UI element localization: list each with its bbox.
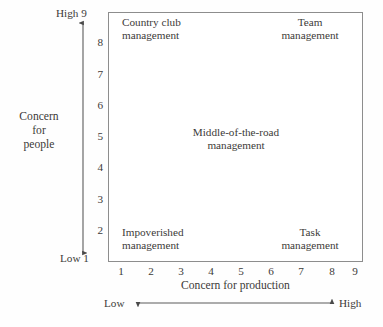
x-axis-low-label: Low: [104, 297, 125, 310]
y-axis-high-label: High 9: [56, 8, 87, 19]
y-tick-3: 3: [78, 194, 103, 205]
quadrant-label-line: Middle-of-the-road: [180, 126, 292, 139]
x-tick-6: 6: [261, 265, 281, 277]
x-axis-high-label: High: [339, 297, 361, 310]
quadrant-label-line: Team: [268, 16, 352, 29]
quadrant-label-task: Task management: [268, 226, 352, 253]
quadrant-label-line: Impoverished: [122, 226, 184, 239]
quadrant-label-impoverished: Impoverished management: [122, 226, 184, 253]
x-tick-3: 3: [171, 265, 191, 277]
y-axis-title: Concern for people: [2, 110, 76, 152]
quadrant-label-team: Team management: [268, 16, 352, 43]
x-axis-double-arrow-icon: [132, 296, 338, 310]
quadrant-label-line: management: [180, 139, 292, 152]
quadrant-label-line: management: [268, 239, 352, 252]
quadrant-label-line: Task: [268, 226, 352, 239]
x-tick-7: 7: [291, 265, 311, 277]
y-axis-title-line: for: [2, 124, 76, 138]
y-axis-tick-labels: 8 7 6 5 4 3 2: [78, 12, 103, 262]
y-tick-2: 2: [78, 225, 103, 236]
x-tick-4: 4: [201, 265, 221, 277]
x-tick-1: 1: [111, 265, 131, 277]
y-tick-8: 8: [78, 38, 103, 49]
y-tick-5: 5: [78, 131, 103, 142]
y-tick-4: 4: [78, 163, 103, 174]
managerial-grid-figure: Country club management Team management …: [0, 0, 383, 327]
x-axis-range-indicator: Low High: [100, 296, 372, 312]
x-axis-title: Concern for production: [108, 279, 363, 293]
quadrant-label-middle-of-the-road: Middle-of-the-road management: [180, 126, 292, 153]
x-tick-5: 5: [231, 265, 251, 277]
y-tick-7: 7: [78, 69, 103, 80]
y-tick-6: 6: [78, 100, 103, 111]
y-axis-low-label: Low 1: [60, 253, 89, 264]
y-axis-title-line: people: [2, 138, 76, 152]
x-tick-9: 9: [345, 265, 365, 277]
quadrant-label-line: management: [268, 29, 352, 42]
y-axis-title-line: Concern: [2, 110, 76, 124]
x-tick-8: 8: [322, 265, 342, 277]
quadrant-label-line: Country club: [122, 16, 181, 29]
quadrant-label-line: management: [122, 29, 181, 42]
x-axis-tick-labels: 1 2 3 4 5 6 7 8 9: [108, 265, 363, 279]
quadrant-label-country-club: Country club management: [122, 16, 181, 43]
quadrant-label-line: management: [122, 239, 184, 252]
x-tick-2: 2: [141, 265, 161, 277]
